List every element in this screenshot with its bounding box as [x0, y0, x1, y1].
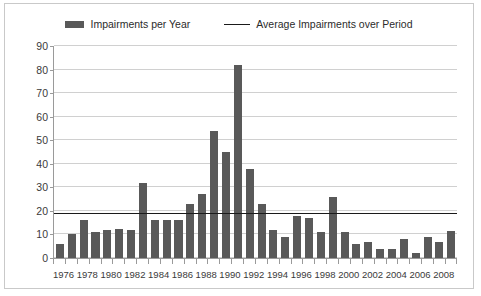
bar[interactable] [210, 131, 218, 258]
y-axis-tick-label: 30 [36, 181, 48, 193]
x-axis-tick-slot [267, 259, 279, 264]
x-axis-label: 1986 [172, 266, 193, 282]
x-axis-tick-slot [243, 259, 255, 264]
x-axis-tick-mark [397, 259, 398, 264]
bar-slot [184, 46, 196, 258]
bar[interactable] [163, 220, 171, 258]
bar[interactable] [293, 216, 301, 258]
x-axis-tick-mark [338, 259, 339, 264]
bar-series [54, 46, 457, 258]
x-axis-label: 1996 [291, 266, 312, 282]
x-axis-tick-slot [219, 259, 231, 264]
bar[interactable] [388, 249, 396, 258]
x-axis-label [454, 266, 457, 282]
bar[interactable] [447, 231, 455, 258]
y-axis-tick-label: 70 [36, 87, 48, 99]
bar[interactable] [424, 237, 432, 258]
x-axis-tick-mark [160, 259, 161, 264]
x-axis-tick-slot [326, 259, 338, 264]
x-axis-tick-mark [255, 259, 256, 264]
bar[interactable] [376, 249, 384, 258]
x-axis-tick-mark [409, 259, 410, 264]
x-axis-tick-mark [267, 259, 268, 264]
chart-frame: Impairments per Year Average Impairments… [4, 3, 474, 289]
x-axis-tick-slot [207, 259, 219, 264]
x-axis-tick-slot [421, 259, 433, 264]
x-axis-label: 2004 [386, 266, 407, 282]
bar-slot [339, 46, 351, 258]
bar-slot [445, 46, 457, 258]
bar[interactable] [400, 239, 408, 258]
bar[interactable] [341, 232, 349, 258]
x-axis-tick-slot [136, 259, 148, 264]
bar[interactable] [198, 194, 206, 258]
bar[interactable] [186, 204, 194, 258]
x-axis-tick-mark [65, 259, 66, 264]
x-axis-tick-mark [456, 259, 457, 264]
x-axis-tick-slot [231, 259, 243, 264]
x-axis-tick-mark [207, 259, 208, 264]
bar[interactable] [68, 234, 76, 258]
x-axis-tick-slot [374, 259, 386, 264]
bar[interactable] [234, 65, 242, 258]
bar[interactable] [329, 197, 337, 258]
bar[interactable] [435, 242, 443, 258]
bar[interactable] [269, 230, 277, 258]
bar-slot [208, 46, 220, 258]
bar[interactable] [56, 244, 64, 258]
x-axis-label: 2000 [338, 266, 359, 282]
bar[interactable] [151, 220, 159, 258]
x-axis-labels: 1976197819801982198419861988199019921994… [53, 266, 457, 282]
x-axis-tick-slot [314, 259, 326, 264]
bar[interactable] [115, 229, 123, 258]
x-axis-tick-slot [112, 259, 124, 264]
x-axis-tick-mark [279, 259, 280, 264]
bar-slot [125, 46, 137, 258]
bar-slot [256, 46, 268, 258]
bar[interactable] [281, 237, 289, 258]
y-axis-tick-label: 20 [36, 205, 48, 217]
bar[interactable] [174, 220, 182, 258]
bar[interactable] [305, 218, 313, 258]
bar-slot [422, 46, 434, 258]
x-axis-tick-slot [445, 259, 457, 264]
x-axis-tick-mark [326, 259, 327, 264]
x-axis-tick-slot [160, 259, 172, 264]
x-axis-tick-mark [77, 259, 78, 264]
bar[interactable] [91, 232, 99, 258]
x-axis-tick-slot [65, 259, 77, 264]
bar-slot [101, 46, 113, 258]
x-axis-tick-slot [124, 259, 136, 264]
x-axis-tick-mark [196, 259, 197, 264]
bar[interactable] [412, 253, 420, 258]
x-axis-label: 1976 [53, 266, 74, 282]
bar[interactable] [103, 230, 111, 258]
bar-slot [78, 46, 90, 258]
bar-slot [113, 46, 125, 258]
bar-slot [410, 46, 422, 258]
bar-slot [279, 46, 291, 258]
bar[interactable] [139, 183, 147, 258]
bar-slot [66, 46, 78, 258]
x-axis-label: 2002 [362, 266, 383, 282]
x-axis-tick-slot [350, 259, 362, 264]
x-axis-label: 1998 [314, 266, 335, 282]
x-axis-tick-mark [350, 259, 351, 264]
bar[interactable] [317, 232, 325, 258]
bar[interactable] [222, 152, 230, 258]
x-axis-tick-slot [279, 259, 291, 264]
x-axis-tick-slot [89, 259, 101, 264]
bar[interactable] [127, 230, 135, 258]
y-axis-tick-label: 10 [36, 228, 48, 240]
bar[interactable] [364, 242, 372, 258]
bar-slot [374, 46, 386, 258]
x-axis-label: 1980 [101, 266, 122, 282]
x-axis-tick-slot [362, 259, 374, 264]
x-axis-tick-mark [386, 259, 387, 264]
x-axis-tick-slot [184, 259, 196, 264]
bar[interactable] [352, 244, 360, 258]
x-axis-tick-slot [77, 259, 89, 264]
y-axis-tick-label: 40 [36, 158, 48, 170]
bar[interactable] [80, 220, 88, 258]
bar[interactable] [258, 204, 266, 258]
